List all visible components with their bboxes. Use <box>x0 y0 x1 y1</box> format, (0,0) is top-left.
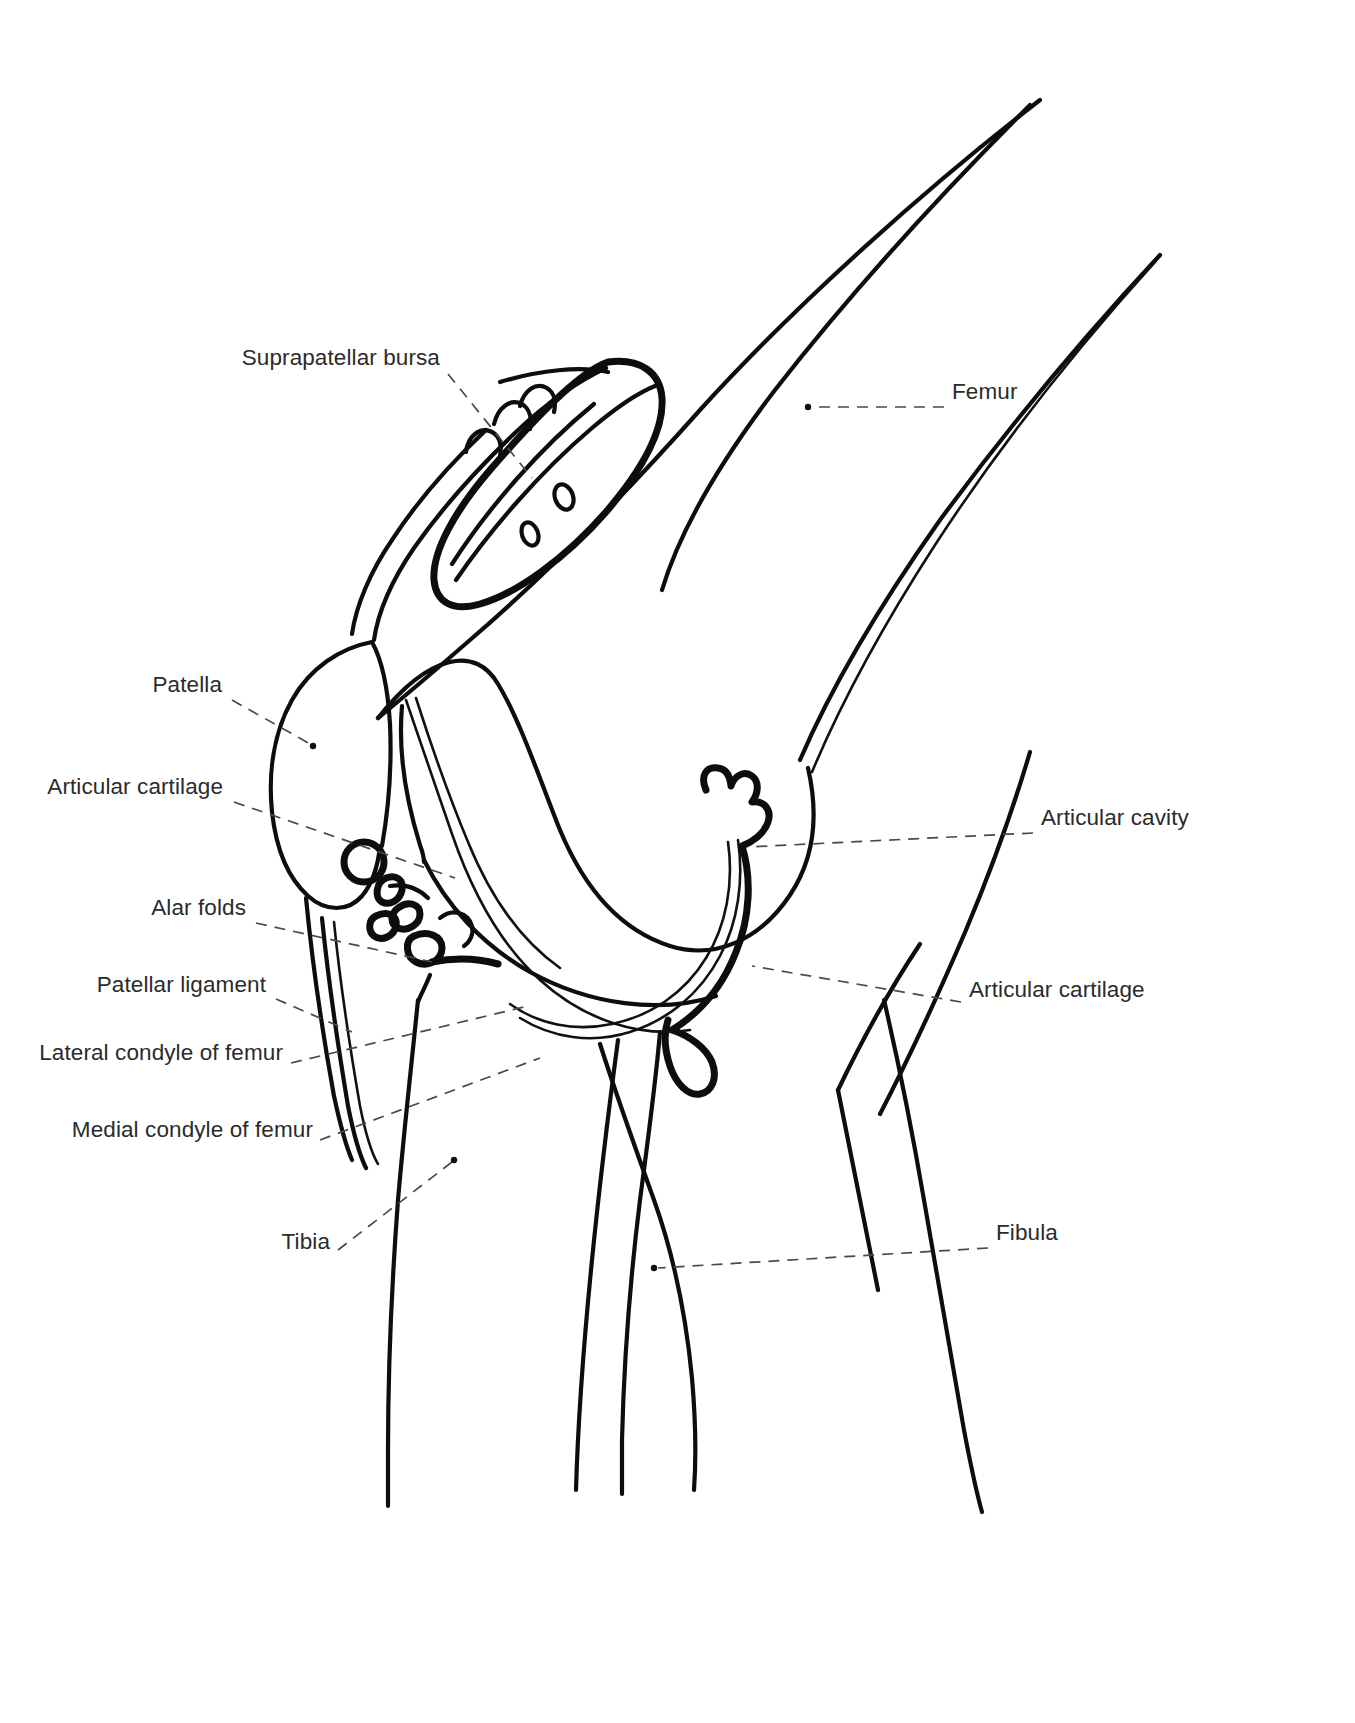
label-lateral-condyle-of-femur: Lateral condyle of femur <box>0 1042 283 1065</box>
patella-bone <box>271 642 391 908</box>
suprapatellar-bursa-shape <box>434 361 662 606</box>
anatomy-figure: Suprapatellar bursa Patella Articular ca… <box>0 0 1355 1723</box>
label-suprapatellar-bursa: Suprapatellar bursa <box>0 347 440 370</box>
label-patellar-ligament: Patellar ligament <box>0 974 266 997</box>
label-alar-folds: Alar folds <box>0 897 246 920</box>
fibula-shaft <box>838 752 1030 1512</box>
articular-cavity-outline <box>406 698 769 1094</box>
patellar-ligament-strands <box>306 898 378 1168</box>
label-articular-cartilage-tibia: Articular cartilage <box>969 979 1145 1002</box>
label-articular-cavity: Articular cavity <box>1041 807 1189 830</box>
leader-dot-patella <box>310 743 316 749</box>
leader-fibula <box>658 1248 988 1268</box>
knee-joint-line-drawing <box>0 0 1355 1723</box>
leader-dot-fibula <box>651 1265 657 1271</box>
leader-patellar-ligament <box>276 999 352 1032</box>
quadriceps-tendon <box>352 368 606 640</box>
label-fibula: Fibula <box>996 1222 1058 1245</box>
label-femur: Femur <box>952 381 1018 404</box>
label-articular-cartilage-patella: Articular cartilage <box>0 776 223 799</box>
leader-patella <box>232 700 312 745</box>
label-patella: Patella <box>0 674 222 697</box>
leader-articular-cavity <box>748 833 1033 847</box>
tibia-shaft <box>388 975 695 1506</box>
leader-articular-cartilage-tibia <box>752 966 961 1002</box>
label-tibia: Tibia <box>0 1231 330 1254</box>
leader-dot-femur <box>805 404 811 410</box>
leader-dot-tibia <box>451 1157 457 1163</box>
label-medial-condyle-of-femur: Medial condyle of femur <box>0 1119 313 1142</box>
